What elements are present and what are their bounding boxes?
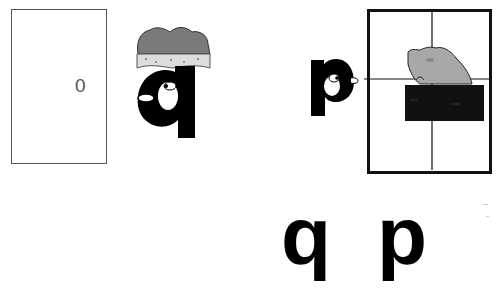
speck bbox=[483, 204, 488, 205]
crowned-q-character bbox=[126, 24, 218, 142]
frog-icon bbox=[408, 47, 472, 84]
letter-q: q bbox=[281, 195, 331, 277]
door-label: 0 bbox=[75, 76, 86, 95]
nose-icon bbox=[138, 94, 154, 102]
crown-icon bbox=[137, 28, 210, 69]
q-body bbox=[138, 66, 195, 138]
speck bbox=[486, 216, 489, 217]
bush-icon bbox=[405, 85, 484, 121]
door-rectangle bbox=[11, 9, 107, 164]
nose-icon bbox=[351, 78, 358, 84]
letter-p: p bbox=[377, 195, 427, 277]
window-scene bbox=[360, 0, 503, 180]
p-character bbox=[304, 54, 360, 120]
